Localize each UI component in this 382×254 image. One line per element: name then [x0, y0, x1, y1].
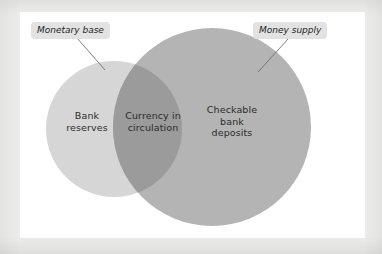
- callout-money-supply: Money supply: [253, 22, 327, 39]
- region-label-checkable-bank-deposits: Checkable bank deposits: [188, 104, 276, 139]
- region-label-bank-reserves: Bank reserves: [56, 110, 118, 133]
- figure-root: Bank reserves Currency in circulation Ch…: [0, 0, 382, 254]
- callout-monetary-base: Monetary base: [31, 22, 110, 39]
- venn-diagram-canvas: Bank reserves Currency in circulation Ch…: [20, 12, 365, 238]
- region-label-currency-in-circulation: Currency in circulation: [119, 110, 187, 133]
